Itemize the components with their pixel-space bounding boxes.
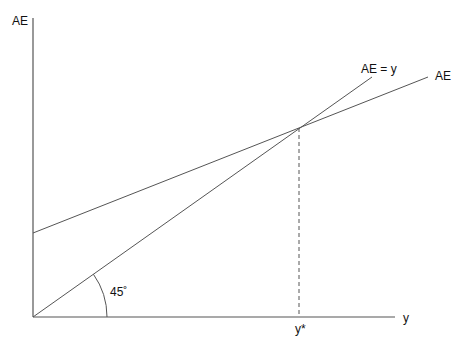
angle-arc — [93, 274, 107, 317]
line-45-degree — [33, 77, 372, 317]
diagram-graphics — [0, 0, 467, 353]
equilibrium-output-label: y* — [295, 323, 306, 335]
keynesian-cross-diagram: AE y AE = y AE 45˚ y* — [0, 0, 467, 353]
x-axis-label: y — [403, 312, 409, 324]
y-axis-label: AE — [12, 15, 28, 27]
ae-line — [33, 77, 428, 233]
ae-line-label: AE — [435, 70, 451, 82]
line-45-label: AE = y — [361, 63, 397, 75]
angle-label: 45˚ — [110, 286, 127, 298]
